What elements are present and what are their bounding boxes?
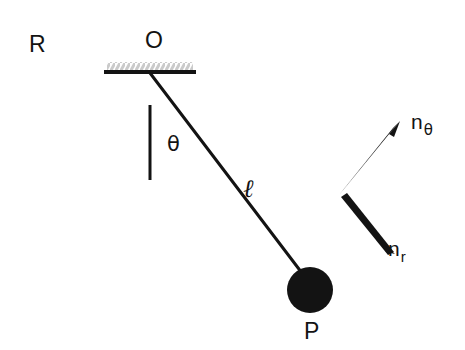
reference-frame-label: R [29,33,46,56]
angle-label-theta: θ [167,134,180,155]
bob-label-p: P [304,320,319,343]
unit-vector-r-subscript: r [400,248,406,265]
pendulum-bob [287,267,333,313]
ceiling-hatching [107,62,193,71]
pendulum-rod [150,73,305,277]
pendulum-diagram: R O θ ℓ P nθ nr [0,0,465,350]
unit-vector-theta-label: nθ [411,110,433,139]
unit-vector-theta-arrow [339,121,400,195]
unit-vector-theta-base: n [411,110,423,133]
unit-vector-theta-subscript: θ [423,121,433,139]
unit-vector-r-base: n [388,237,400,260]
diagram-canvas [0,0,465,350]
pivot-label-o: O [145,29,163,52]
unit-vector-r-arrow [341,193,395,255]
rod-length-label-ell: ℓ [243,176,253,201]
unit-vector-r-label: nr [388,237,406,265]
